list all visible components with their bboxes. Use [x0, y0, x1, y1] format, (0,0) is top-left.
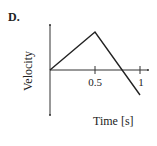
x-tick-label-0.5: 0.5 — [88, 76, 102, 88]
y-axis-top-arrow — [49, 24, 51, 26]
x-tick-label-1: 1 — [138, 76, 144, 88]
x-axis-end-arrow — [147, 69, 149, 71]
x-axis-label: Time [s] — [93, 114, 134, 129]
y-axis-bottom-arrow — [49, 114, 51, 116]
y-axis-label: Velocity — [21, 51, 36, 91]
